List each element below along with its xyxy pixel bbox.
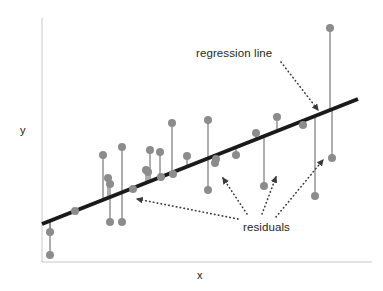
data-point [146, 146, 154, 154]
data-point [252, 129, 260, 137]
data-point [99, 151, 107, 159]
data-point [326, 24, 334, 32]
regression-line-group [42, 99, 358, 224]
data-point [299, 121, 307, 129]
regression-line [42, 99, 358, 224]
data-point [46, 228, 54, 236]
data-point [232, 151, 240, 159]
data-point [169, 170, 177, 178]
regression-line-label-arrow [281, 62, 318, 110]
data-point [144, 168, 152, 176]
data-point [106, 218, 114, 226]
data-point [260, 182, 268, 190]
data-points-group [46, 24, 336, 259]
data-point [212, 155, 220, 163]
data-point [106, 180, 114, 188]
regression-residuals-figure: y x regression line residuals [0, 0, 383, 291]
residuals-label-arrow [276, 160, 323, 217]
data-point [156, 148, 164, 156]
plot-canvas [0, 0, 383, 291]
data-point [129, 185, 137, 193]
data-point [118, 218, 126, 226]
residuals-annotation-label: residuals [243, 221, 290, 233]
data-point [71, 207, 79, 215]
y-axis-label: y [20, 124, 26, 136]
data-point [273, 113, 281, 121]
regression-line-annotation-label: regression line [196, 47, 272, 59]
data-point [183, 152, 191, 160]
data-point [204, 116, 212, 124]
data-point [204, 186, 212, 194]
data-point [168, 119, 176, 127]
data-point [311, 192, 319, 200]
data-point [46, 251, 54, 259]
data-point [328, 154, 336, 162]
annotation-arrows-group [137, 62, 323, 219]
residuals-label-arrow [137, 199, 238, 219]
data-point [157, 173, 165, 181]
residuals-label-arrow [223, 178, 247, 214]
data-point [118, 143, 126, 151]
x-axis-label: x [197, 269, 203, 281]
